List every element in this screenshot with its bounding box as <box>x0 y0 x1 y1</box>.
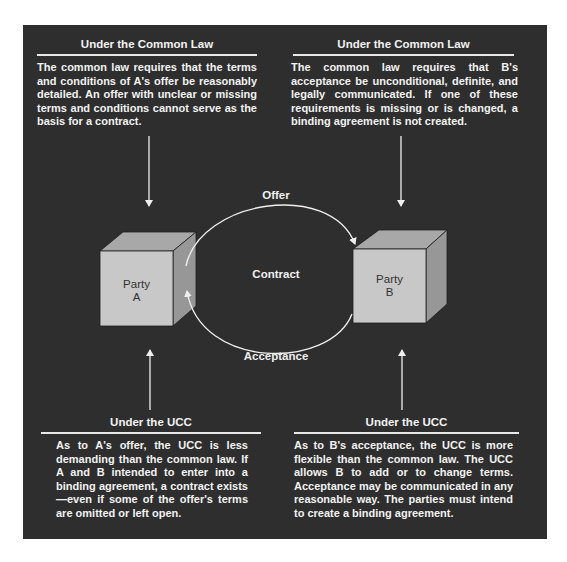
acceptance-arrow-icon <box>187 291 352 353</box>
party-a-line1: Party <box>100 278 173 291</box>
party-b-line1: Party <box>353 273 426 286</box>
party-a-label: Party A <box>100 278 173 304</box>
party-b-label: Party B <box>353 273 426 299</box>
contract-label: Contract <box>236 268 316 280</box>
party-a-line2: A <box>100 291 173 304</box>
acceptance-label: Acceptance <box>226 350 326 362</box>
party-b-line2: B <box>353 286 426 299</box>
offer-arrow-icon <box>186 205 355 266</box>
offer-label: Offer <box>236 189 316 201</box>
contract-diagram <box>0 0 567 562</box>
